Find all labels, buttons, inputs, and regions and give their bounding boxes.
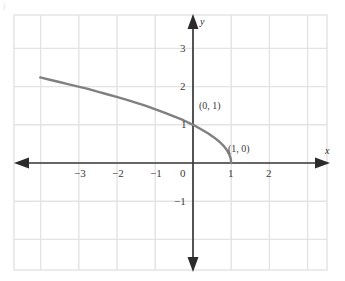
x-tick-label-0: 0 <box>180 168 186 179</box>
x-tick-label-1: 1 <box>228 168 234 179</box>
x-tick-label--1: −1 <box>150 168 162 179</box>
y-tick-label--1: −1 <box>174 196 186 207</box>
x-axis-label: x <box>325 146 329 156</box>
grid-panel <box>14 15 327 270</box>
x-tick-label-2: 2 <box>266 168 272 179</box>
x-tick-label--3: −3 <box>74 168 86 179</box>
y-tick-label-1: 1 <box>181 119 187 130</box>
annotation-point-0-1: (0, 1) <box>199 101 221 111</box>
graph-figure: ) <box>0 0 345 281</box>
y-tick-label-2: 2 <box>180 81 186 92</box>
x-tick-label--2: −2 <box>112 168 124 179</box>
coordinate-plane <box>0 0 345 281</box>
annotation-point-1-0: (1, 0) <box>228 144 250 154</box>
y-tick-label-3: 3 <box>180 43 186 54</box>
y-axis-label: y <box>200 17 204 27</box>
